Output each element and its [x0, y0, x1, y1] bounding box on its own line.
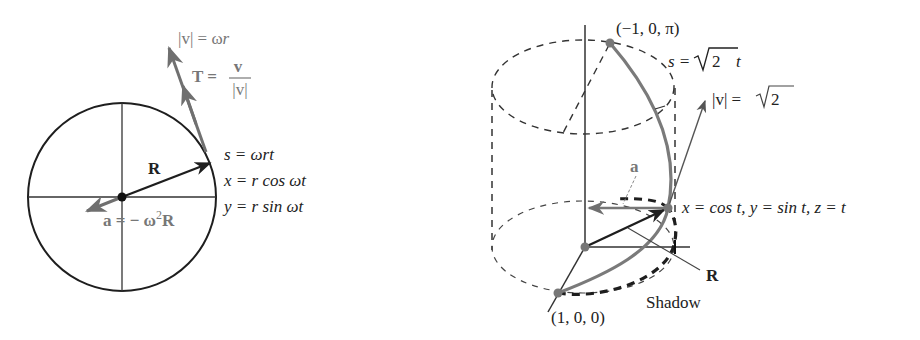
- start-point: [554, 289, 563, 298]
- arc-length-label: s = 2 t: [668, 48, 742, 71]
- left-circular-motion-diagram: |v| = ωr T = v |v| R a = − ω2R s = ωrt x…: [28, 29, 307, 292]
- tangent-lhs-label: T =: [192, 67, 217, 86]
- helix-curve: [558, 43, 671, 293]
- top-point-label: (−1, 0, π): [616, 19, 680, 38]
- center-point: [118, 193, 127, 202]
- shadow-label: Shadow: [646, 293, 702, 312]
- cylinder-top-ellipse: [492, 40, 674, 134]
- radius-vector-label: R: [148, 159, 161, 178]
- tangent-denominator: |v|: [232, 80, 247, 99]
- speed-prefix: |v| =: [712, 90, 741, 109]
- acceleration-vector-arrow: [87, 197, 122, 211]
- arc-length-sqrt-value: 2: [712, 52, 721, 71]
- right-helix-diagram: (−1, 0, π) s = 2 t |v| = 2 a x = cos t, …: [492, 19, 847, 327]
- acceleration-label: a: [630, 157, 639, 176]
- speed-label: |v| = ωr: [178, 29, 230, 48]
- arc-length-prefix: s =: [668, 52, 690, 71]
- top-projection-dashed: [563, 45, 609, 133]
- origin-point: [581, 243, 590, 252]
- acceleration-label: a = − ω2R: [103, 208, 175, 230]
- speed-sqrt-value: 2: [771, 90, 780, 109]
- diagram-canvas: |v| = ωr T = v |v| R a = − ω2R s = ωrt x…: [0, 0, 920, 340]
- top-point: [606, 39, 615, 48]
- x-axis: [548, 247, 585, 312]
- helix-tick: [655, 106, 665, 109]
- speed-label: |v| = 2: [712, 86, 794, 109]
- y-parametric-label: y = r sin ωt: [222, 197, 304, 216]
- moving-point: [664, 204, 673, 213]
- arc-length-label: s = ωrt: [224, 145, 275, 164]
- arc-length-var: t: [736, 52, 742, 71]
- radius-vector-arrow: [122, 163, 210, 197]
- start-point-label: (1, 0, 0): [551, 308, 605, 327]
- radius-vector-label: R: [706, 266, 719, 285]
- unit-tangent-arrow: [183, 86, 196, 124]
- tangent-numerator: v: [234, 57, 243, 76]
- x-parametric-label: x = r cos ωt: [223, 171, 307, 190]
- radius-vector-arrow: [585, 210, 664, 247]
- velocity-vector-arrow: [668, 101, 705, 208]
- parametric-equation-label: x = cos t, y = sin t, z = t: [681, 198, 847, 217]
